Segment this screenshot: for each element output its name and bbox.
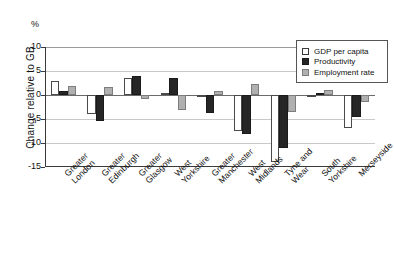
legend-item-emp: Employment rate: [302, 68, 383, 77]
bar-gdp: [161, 93, 170, 95]
bar-chart: % Change relative to GB 1050-5-10-15 Gre…: [0, 0, 394, 260]
bar-prod: [59, 91, 68, 95]
legend-item-prod: Productivity: [302, 57, 383, 66]
y-tick-mark: [41, 167, 45, 168]
bar-emp: [251, 84, 260, 95]
legend-label: Productivity: [314, 57, 355, 66]
bar-gdp: [344, 95, 353, 128]
bar-emp: [361, 95, 370, 102]
bar-prod: [132, 76, 141, 95]
bar-emp: [178, 95, 187, 110]
legend-label: GDP per capita: [314, 47, 369, 56]
legend: GDP per capitaProductivityEmployment rat…: [296, 40, 388, 83]
bar-emp: [68, 86, 77, 95]
bar-prod: [316, 93, 325, 95]
bar-prod: [206, 95, 215, 113]
legend-swatch-emp: [302, 69, 309, 76]
bar-gdp: [307, 95, 316, 97]
y-tick-label: 10: [15, 42, 41, 51]
y-tick-label: 0: [15, 90, 41, 99]
bar-prod: [279, 95, 288, 148]
bar-prod: [169, 78, 178, 95]
bar-emp: [324, 90, 333, 95]
bar-prod: [352, 95, 361, 117]
legend-label: Employment rate: [314, 68, 374, 77]
legend-item-gdp: GDP per capita: [302, 47, 383, 56]
bar-emp: [288, 95, 297, 112]
y-tick-label: -10: [15, 138, 41, 147]
y-tick-label: -15: [15, 162, 41, 171]
y-tick-label: 5: [15, 66, 41, 75]
bar-gdp: [197, 95, 206, 97]
y-tick-label: -5: [15, 114, 41, 123]
bar-gdp: [234, 95, 243, 131]
legend-swatch-gdp: [302, 48, 309, 55]
bar-gdp: [87, 95, 96, 114]
bar-emp: [214, 91, 223, 95]
legend-swatch-prod: [302, 58, 309, 65]
bar-emp: [104, 87, 113, 95]
bar-gdp: [51, 81, 60, 95]
bar-emp: [141, 95, 150, 99]
bar-prod: [242, 95, 251, 134]
bar-prod: [96, 95, 105, 121]
bar-gdp: [124, 78, 133, 95]
